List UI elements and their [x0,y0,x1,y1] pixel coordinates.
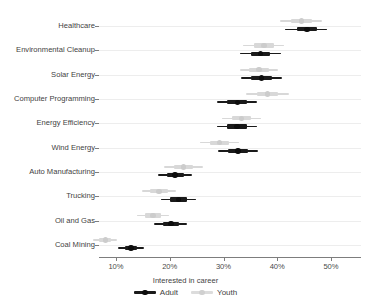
category-row: Trucking [99,184,361,208]
y-axis-tick [95,26,99,27]
gridline [99,172,361,173]
category-row: Coal Mining [99,233,361,257]
chart-container: HealthcareEnvironmental CleanupSolar Ene… [0,0,371,305]
category-row: Environmental Cleanup [99,38,361,62]
y-axis-tick [95,75,99,76]
x-axis-tick [331,257,332,261]
point-estimate [168,221,173,226]
x-axis-tick [277,257,278,261]
point-estimate [261,43,266,48]
gridline [99,50,361,51]
x-axis-tick [170,257,171,261]
legend-label-youth: Youth [217,288,237,297]
x-axis-tick-label: 50% [323,262,338,271]
category-row: Wind Energy [99,136,361,160]
point-estimate [234,124,239,129]
category-row: Oil and Gas [99,208,361,232]
legend-key-youth-icon [191,288,213,297]
category-row: Auto Manufacturing [99,160,361,184]
y-axis-tick [95,245,99,246]
point-estimate [156,189,161,194]
y-axis-tick [95,99,99,100]
y-axis-label: Solar Energy [0,69,95,81]
y-axis-label: Computer Programming [0,93,95,105]
x-axis-title: Interested in career [0,276,371,285]
point-estimate [304,27,309,32]
point-estimate [235,148,240,153]
legend-key-adult-icon [134,288,156,297]
legend-item-adult[interactable]: Adult [134,288,178,297]
y-axis-tick [95,123,99,124]
point-estimate [265,91,270,96]
point-estimate [150,213,155,218]
x-axis-line [99,257,361,258]
y-axis-tick [95,148,99,149]
legend-item-youth[interactable]: Youth [191,288,237,297]
point-estimate [299,18,304,23]
point-estimate [128,245,133,250]
point-estimate [172,172,177,177]
y-axis-label: Environmental Cleanup [0,44,95,56]
y-axis-label: Wind Energy [0,142,95,154]
y-axis-label: Coal Mining [0,239,95,251]
category-row: Computer Programming [99,87,361,111]
point-estimate [259,75,264,80]
legend-label-adult: Adult [160,288,178,297]
chart-legend: Adult Youth [0,288,371,297]
y-axis-tick [95,221,99,222]
gridline [99,26,361,27]
y-axis-label: Oil and Gas [0,215,95,227]
category-row: Solar Energy [99,63,361,87]
x-axis-tick [116,257,117,261]
y-axis-label: Healthcare [0,20,95,32]
x-axis-tick-label: 30% [216,262,231,271]
gridline [99,245,361,246]
category-row: Energy Efficiency [99,111,361,135]
y-axis-label: Energy Efficiency [0,117,95,129]
y-axis-tick [95,172,99,173]
x-axis-tick-label: 20% [162,262,177,271]
x-axis-tick-label: 10% [108,262,123,271]
point-estimate [239,116,244,121]
y-axis-label: Trucking [0,190,95,202]
point-estimate [181,164,186,169]
x-axis-tick [224,257,225,261]
y-axis-tick [95,196,99,197]
gridline [99,221,361,222]
y-axis-tick [95,50,99,51]
gridline [99,75,361,76]
point-estimate [235,100,240,105]
x-axis-tick-label: 40% [270,262,285,271]
point-estimate [103,237,108,242]
plot-panel: HealthcareEnvironmental CleanupSolar Ene… [99,14,361,257]
y-axis-label: Auto Manufacturing [0,166,95,178]
gridline [99,196,361,197]
category-row: Healthcare [99,14,361,38]
